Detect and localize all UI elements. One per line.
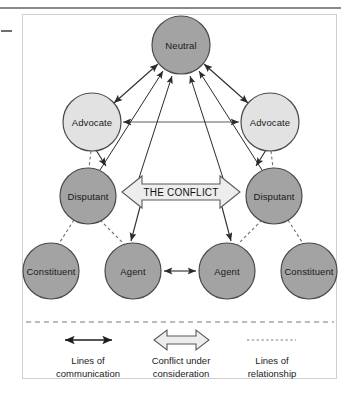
legend-text-communication: Lines of communication: [56, 355, 120, 380]
legend-text-conflict: Conflict under consideration: [152, 355, 211, 380]
node-agent-left[interactable]: [105, 243, 161, 299]
node-constituent-right[interactable]: [281, 243, 337, 299]
link-advocate-left-to-disputant-left-arrow: [96, 150, 106, 166]
link-disputant-left-agent-left: [100, 220, 124, 244]
link-advocate-right-neutral: [204, 64, 248, 103]
node-advocate-right[interactable]: [241, 93, 299, 151]
node-constituent-left[interactable]: [23, 243, 79, 299]
link-conflict-left-neutral: [139, 76, 172, 178]
link-disputant-right-constituent-right: [288, 220, 304, 245]
legend-text-communication-line2: communication: [56, 368, 120, 381]
legend-text-conflict-line1: Conflict under: [152, 355, 211, 368]
node-neutral[interactable]: [152, 16, 210, 74]
legend-text-relationship-line1: Lines of: [248, 355, 297, 368]
legend-text-relationship-line2: relationship: [248, 368, 297, 381]
legend-symbol-conflict: [154, 330, 209, 350]
legend-text-conflict-line2: consideration: [152, 368, 211, 381]
link-conflict-right-neutral: [190, 76, 223, 178]
link-conflict-to-agent-right: [222, 207, 231, 241]
link-advocate-right-to-disputant-right-arrow: [256, 150, 266, 166]
link-advocate-right-disputant-right: [271, 151, 273, 168]
link-conflict-to-agent-left: [131, 207, 140, 241]
link-advocate-left-disputant-left: [89, 151, 91, 168]
link-disputant-left-constituent-left: [58, 220, 74, 245]
link-disputant-right-agent-right: [238, 220, 262, 244]
legend-text-communication-line1: Lines of: [56, 355, 120, 368]
link-advocate-left-neutral: [114, 64, 158, 103]
node-disputant-left[interactable]: [60, 168, 116, 224]
node-agent-right[interactable]: [199, 243, 255, 299]
node-disputant-right[interactable]: [246, 168, 302, 224]
figure-page: Neutral Advocate Advocate Disputant Disp…: [0, 0, 359, 394]
node-advocate-left[interactable]: [63, 93, 121, 151]
legend-text-relationship: Lines of relationship: [248, 355, 297, 380]
conflict-arrow-label: THE CONFLICT: [143, 187, 218, 198]
node-layer: [23, 16, 337, 299]
